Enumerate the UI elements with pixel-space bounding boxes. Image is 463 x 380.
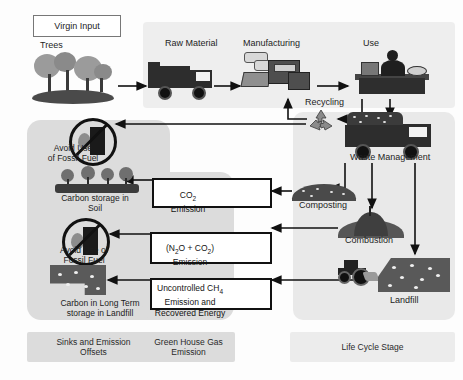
- ghg-line: (N: [166, 243, 175, 253]
- landfill-illustration: [378, 258, 450, 300]
- ghg-label-ch4-emission: Uncontrolled CH4 Emission and Recovered …: [140, 283, 240, 318]
- stage-label-combustion: Combustion: [345, 235, 393, 245]
- stage-label-recycling: Recycling: [305, 97, 344, 107]
- legend-line: Life Cycle Stage: [342, 342, 404, 352]
- use-office-desk-illustration: [355, 48, 429, 96]
- virgin-input-box: Virgin Input: [33, 15, 121, 37]
- stage-label-raw-material: Raw Material: [165, 38, 218, 48]
- trees-illustration: [30, 52, 116, 104]
- ghg-line: O + CO: [179, 243, 208, 253]
- ghg-line: ): [211, 243, 214, 253]
- ghg-subscript: 2: [193, 195, 197, 202]
- raw-material-truck-illustration: [148, 58, 214, 102]
- sink-label-avoid-fossil-fuel-1: Avoid Use of Fossil Fuel: [30, 143, 116, 163]
- legend-green-house-gas-emission: Green House Gas Emission: [142, 332, 235, 362]
- legend-line: Green House Gas: [154, 337, 223, 347]
- stage-label-manufacturing: Manufacturing: [243, 38, 300, 48]
- recycling-symbol-icon: [308, 108, 334, 132]
- ghg-line: Emission and: [164, 297, 215, 307]
- manufacturing-machine-illustration: [240, 50, 312, 96]
- legend-line: Emission: [171, 347, 205, 357]
- sink-label-avoid-fossil-fuel-2: Avoid Use of Fossil Fuel: [36, 245, 132, 265]
- ghg-subscript: 4: [219, 288, 223, 295]
- legend-sinks-and-emission-offsets: Sinks and Emission Offsets: [27, 332, 160, 362]
- tractor-illustration: [336, 258, 378, 284]
- ghg-label-co2-emission: CO2 Emission: [146, 190, 230, 215]
- sink-line: Fossil Fuel: [63, 255, 104, 265]
- ghg-line: Emission: [171, 204, 205, 214]
- carbon-long-term-landfill-illustration: [50, 265, 106, 297]
- sink-line: storage in Landfill: [67, 308, 134, 318]
- legend-line: Sinks and Emission: [56, 337, 130, 347]
- stage-label-waste-management: Waste Management: [350, 152, 430, 162]
- sink-line: of Fossil Fuel: [48, 153, 99, 163]
- sink-line: Soil: [88, 203, 102, 213]
- virgin-input-label: Virgin Input: [54, 21, 99, 31]
- legend-line: Offsets: [80, 347, 107, 357]
- ghg-line: CO: [180, 190, 193, 200]
- stage-label-use: Use: [363, 38, 379, 48]
- sink-line: Avoid Use: [54, 143, 93, 153]
- sink-line: Avoid Use of: [60, 245, 108, 255]
- lca-diagram-canvas: Virgin Input: [0, 0, 463, 380]
- stage-label-trees: Trees: [40, 40, 63, 50]
- sink-label-carbon-storage-soil: Carbon storage in Soil: [30, 193, 160, 213]
- ghg-label-n2o-co2-emission: (N2O + CO2) Emission: [144, 243, 236, 268]
- composting-pile-illustration: [292, 182, 356, 202]
- legend-life-cycle-stage: Life Cycle Stage: [290, 332, 455, 362]
- ghg-line: Uncontrolled CH: [157, 283, 219, 293]
- ghg-line: Emission: [173, 257, 207, 267]
- ghg-line: Recovered Energy: [155, 308, 225, 318]
- carbon-storage-soil-illustration: [55, 165, 139, 193]
- sink-line: Carbon in Long Term: [60, 298, 139, 308]
- stage-label-composting: Composting: [299, 200, 347, 210]
- stage-label-landfill: Landfill: [390, 295, 419, 305]
- sink-line: Carbon storage in: [61, 193, 129, 203]
